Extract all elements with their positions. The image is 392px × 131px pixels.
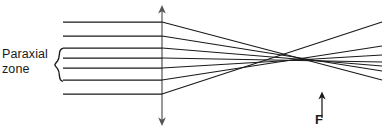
focal-point-label: F: [315, 113, 323, 127]
ray-diagram-canvas: [0, 0, 392, 131]
paraxial-zone-brace: [55, 49, 63, 82]
incoming-ray-group: [63, 22, 162, 94]
optics-ray-diagram: Paraxial zone F: [0, 0, 392, 131]
paraxial-zone-label: Paraxial zone: [2, 47, 54, 76]
refracted-ray-group: [162, 22, 382, 94]
